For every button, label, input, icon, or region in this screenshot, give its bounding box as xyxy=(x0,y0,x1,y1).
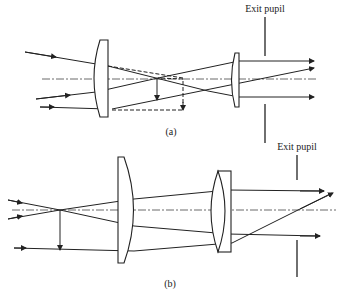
panel-b: Exit pupil (b) xyxy=(8,141,336,290)
field-lens-b xyxy=(118,157,134,263)
ray-b-1 xyxy=(8,190,324,210)
ray-b-3-out xyxy=(300,193,333,209)
eye-lens-a xyxy=(232,53,240,107)
caption-a: (a) xyxy=(165,126,176,138)
panel-a: Exit pupil (a) xyxy=(25,3,316,143)
rays-a xyxy=(25,52,314,110)
field-lens-a xyxy=(94,40,108,117)
ray-b-3 xyxy=(14,193,332,251)
exit-pupil-label-b: Exit pupil xyxy=(277,141,317,152)
ray-b-2-arrow xyxy=(8,216,22,219)
ray-b-1-arrow xyxy=(8,200,22,203)
ray-a-1-virtual xyxy=(108,66,183,78)
ray-a-2 xyxy=(36,61,239,99)
virtual-ray-box-a xyxy=(112,78,183,110)
caption-b: (b) xyxy=(164,278,176,290)
ray-a-2-arrow xyxy=(36,95,70,99)
optical-diagram: Exit pupil (a) xyxy=(0,0,341,293)
ray-b-2 xyxy=(8,210,320,236)
exit-pupil-label-a: Exit pupil xyxy=(245,3,285,14)
ray-a-1-arrow xyxy=(25,52,56,57)
diagram-svg: Exit pupil (a) xyxy=(0,0,341,293)
ray-a-1 xyxy=(25,52,239,97)
rays-b xyxy=(8,190,333,251)
